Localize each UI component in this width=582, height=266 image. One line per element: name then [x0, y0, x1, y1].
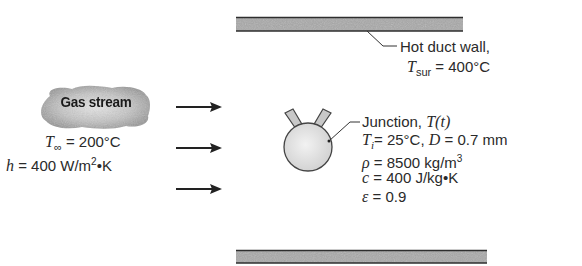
bottom-duct-wall: [236, 250, 487, 263]
flow-arrows: [176, 102, 222, 194]
flow-arrow-icon: [176, 143, 222, 153]
t-sur-label: Tsur = 400°C: [407, 58, 490, 81]
duct-wall-leader-line: [367, 31, 397, 46]
junction-sphere: [284, 123, 332, 171]
flow-arrow-icon: [176, 184, 222, 194]
junction-leader-line: [329, 122, 360, 141]
specific-heat-label: c = 400 J/kg•K: [362, 169, 458, 187]
gas-stream-label: Gas stream: [49, 93, 143, 110]
junction-label: Junction, T(t): [362, 113, 450, 131]
duct-wall-label: Hot duct wall,: [400, 38, 490, 56]
flow-arrow-icon: [176, 102, 222, 112]
emissivity-label: ε = 0.9: [362, 188, 406, 206]
h-coefficient-label: h = 400 W/m2•K: [6, 153, 112, 175]
top-duct-wall: [236, 17, 463, 31]
